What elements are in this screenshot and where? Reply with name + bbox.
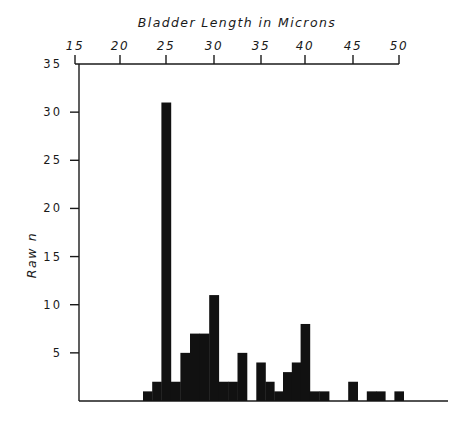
chart-title: Bladder Length in Microns bbox=[138, 15, 336, 30]
x-tick-label: 25 bbox=[157, 39, 175, 53]
y-tick-label: 10 bbox=[43, 298, 62, 312]
histogram-bar bbox=[228, 382, 238, 401]
histogram-bar bbox=[283, 372, 292, 401]
y-axis: 5101520253035 bbox=[43, 57, 448, 401]
histogram-bar bbox=[171, 382, 181, 401]
histogram-bar bbox=[256, 362, 266, 401]
histogram-bar bbox=[161, 103, 171, 401]
histogram-bar bbox=[348, 382, 358, 401]
x-tick-label: 45 bbox=[344, 39, 362, 53]
histogram-bars bbox=[143, 103, 404, 401]
y-tick-label: 25 bbox=[43, 153, 62, 167]
histogram-bar bbox=[152, 382, 162, 401]
y-tick-label: 5 bbox=[53, 346, 62, 360]
histogram-bar bbox=[200, 334, 210, 401]
histogram-bar bbox=[180, 353, 190, 401]
y-axis-label: Raw n bbox=[24, 232, 39, 278]
x-tick-label: 50 bbox=[390, 39, 408, 53]
histogram-bar bbox=[394, 391, 404, 401]
y-tick-label: 20 bbox=[43, 201, 62, 215]
histogram-bar bbox=[274, 391, 283, 401]
histogram-bar bbox=[238, 353, 248, 401]
x-axis-top: 1520253035404550 bbox=[66, 39, 408, 64]
histogram-bar bbox=[310, 391, 320, 401]
y-tick-label: 35 bbox=[43, 57, 62, 71]
x-tick-label: 20 bbox=[111, 39, 129, 53]
x-tick-label: 40 bbox=[296, 39, 314, 53]
histogram-bar bbox=[376, 391, 386, 401]
histogram-bar bbox=[143, 391, 153, 401]
x-tick-label: 30 bbox=[205, 39, 223, 53]
y-tick-label: 15 bbox=[43, 250, 62, 264]
histogram-bar bbox=[319, 391, 329, 401]
x-tick-label: 35 bbox=[252, 39, 270, 53]
histogram-bar bbox=[367, 391, 377, 401]
histogram-bar bbox=[209, 295, 219, 401]
histogram-bar bbox=[219, 382, 229, 401]
y-tick-label: 30 bbox=[43, 105, 62, 119]
histogram-bar bbox=[292, 362, 301, 401]
histogram-bar bbox=[301, 324, 311, 401]
histogram-chart: Bladder Length in Microns 15202530354045… bbox=[0, 0, 475, 424]
x-tick-label: 15 bbox=[66, 39, 84, 53]
histogram-bar bbox=[190, 334, 200, 401]
histogram-bar bbox=[265, 382, 274, 401]
